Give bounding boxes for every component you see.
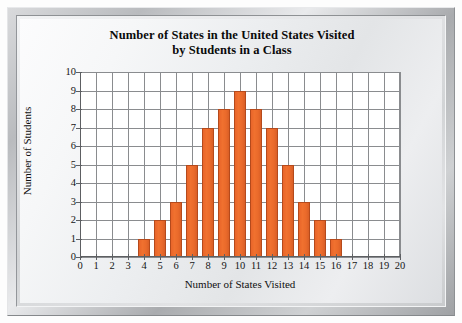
bar: [186, 165, 198, 258]
x-tick-mark: [192, 254, 193, 260]
plot-border-top: [80, 72, 400, 73]
x-tick-mark: [304, 254, 305, 260]
x-tick-mark: [208, 254, 209, 260]
x-tick-mark: [96, 254, 97, 260]
y-tick-mark: [76, 128, 82, 129]
x-tick-mark: [400, 254, 401, 260]
gridline-vertical: [400, 72, 401, 257]
y-tick-mark: [76, 183, 82, 184]
y-tick-label: 5: [54, 160, 76, 170]
y-tick-mark: [76, 146, 82, 147]
y-tick-mark: [76, 257, 82, 258]
bar: [154, 220, 166, 257]
chart-title-line-2: by Students in a Class: [52, 43, 412, 58]
x-tick-mark: [320, 254, 321, 260]
bar: [218, 109, 230, 257]
y-axis-tick-labels: 012345678910: [52, 72, 76, 257]
y-tick-mark: [76, 165, 82, 166]
x-tick-mark: [256, 254, 257, 260]
x-tick-mark: [176, 254, 177, 260]
y-tick-mark: [76, 202, 82, 203]
chart-screenshot: Number of States in the United States Vi…: [0, 0, 462, 323]
bar: [250, 109, 262, 257]
x-tick-mark: [368, 254, 369, 260]
y-tick-mark: [76, 91, 82, 92]
y-tick-label: 3: [54, 197, 76, 207]
bar: [298, 202, 310, 258]
x-tick-mark: [128, 254, 129, 260]
x-tick-mark: [240, 254, 241, 260]
y-axis-title: Number of Students: [21, 81, 33, 221]
chart-title-line-1: Number of States in the United States Vi…: [52, 28, 412, 43]
y-tick-mark: [76, 239, 82, 240]
y-tick-label: 1: [54, 234, 76, 244]
plot-area: [80, 72, 400, 257]
bar: [234, 91, 246, 258]
y-tick-mark: [76, 72, 82, 73]
bar: [282, 165, 294, 258]
x-tick-mark: [288, 254, 289, 260]
chart-title: Number of States in the United States Vi…: [52, 28, 412, 58]
x-tick-mark: [336, 254, 337, 260]
plot-border-right: [399, 72, 400, 257]
x-axis-title: Number of States Visited: [80, 278, 400, 290]
x-tick-mark: [384, 254, 385, 260]
y-tick-label: 6: [54, 141, 76, 151]
x-tick-mark: [352, 254, 353, 260]
x-tick-mark: [80, 254, 81, 260]
y-tick-mark: [76, 220, 82, 221]
x-tick-mark: [112, 254, 113, 260]
bar: [170, 202, 182, 258]
y-tick-label: 2: [54, 215, 76, 225]
x-tick-mark: [224, 254, 225, 260]
y-tick-label: 7: [54, 123, 76, 133]
x-tick-mark: [144, 254, 145, 260]
y-tick-label: 10: [54, 67, 76, 77]
bar-series: [80, 72, 400, 257]
bar: [266, 128, 278, 258]
y-tick-label: 8: [54, 104, 76, 114]
y-tick-mark: [76, 109, 82, 110]
x-axis-tick-labels: 01234567891011121314151617181920: [80, 260, 400, 276]
y-tick-label: 9: [54, 86, 76, 96]
x-tick-mark: [160, 254, 161, 260]
bar: [314, 220, 326, 257]
x-tick-mark: [272, 254, 273, 260]
x-tick-label: 20: [390, 260, 410, 272]
y-tick-label: 4: [54, 178, 76, 188]
bar: [202, 128, 214, 258]
